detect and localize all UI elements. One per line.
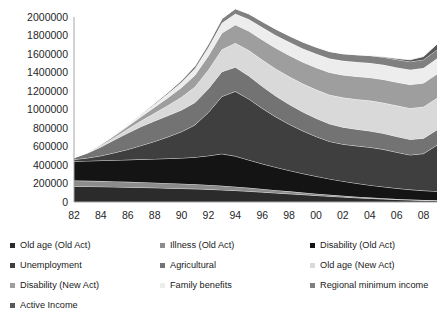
legend-item-label: Regional minimum income (320, 281, 428, 290)
chart-legend: Old age (Old Act)Illness (Old Act)Disabi… (0, 236, 447, 320)
y-axis-tick-label: 1200000 (27, 85, 68, 97)
stacked-area-chart: 0200000400000600000800000100000012000001… (0, 0, 447, 320)
legend-item-label: Disability (Old Act) (320, 241, 395, 250)
plot-area: 0200000400000600000800000100000012000001… (0, 0, 447, 232)
legend-item[interactable]: Illness (Old Act) (160, 241, 310, 250)
x-axis-tick-label: 98 (283, 209, 295, 221)
y-axis-tick-label: 2000000 (27, 11, 68, 23)
legend-item-label: Old age (New Act) (320, 261, 395, 270)
x-axis-tick-label: 08 (418, 209, 430, 221)
x-axis-tick-label: 04 (364, 209, 376, 221)
legend-item[interactable]: Disability (Old Act) (310, 241, 447, 250)
legend-item-label: Family benefits (170, 281, 232, 290)
y-axis-tick-label: 1000000 (27, 103, 68, 115)
y-axis-tick-label: 0 (62, 196, 68, 208)
x-axis-tick-label: 90 (176, 209, 188, 221)
y-axis-tick-label: 400000 (33, 159, 68, 171)
legend-item[interactable]: Old age (Old Act) (10, 241, 160, 250)
legend-swatch-icon (310, 243, 315, 248)
y-axis-tick-label: 1800000 (27, 29, 68, 41)
legend-swatch-icon (10, 263, 15, 268)
x-axis-tick-label: 84 (95, 209, 107, 221)
legend-swatch-icon (160, 283, 165, 288)
y-axis-tick-label: 800000 (33, 122, 68, 134)
legend-item[interactable]: Agricultural (160, 261, 310, 270)
legend-item-label: Unemployment (20, 261, 82, 270)
y-axis-tick-label: 1600000 (27, 48, 68, 60)
legend-item[interactable]: Old age (New Act) (310, 261, 447, 270)
plot-svg: 0200000400000600000800000100000012000001… (0, 0, 447, 232)
legend-swatch-icon (160, 243, 165, 248)
legend-swatch-icon (310, 263, 315, 268)
legend-swatch-icon (10, 283, 15, 288)
x-axis-tick-label: 82 (68, 209, 80, 221)
legend-grid: Old age (Old Act)Illness (Old Act)Disabi… (10, 236, 437, 316)
x-axis-tick-label: 92 (203, 209, 215, 221)
legend-item[interactable]: Disability (New Act) (10, 281, 160, 290)
x-axis-tick-label: 00 (310, 209, 322, 221)
legend-swatch-icon (10, 303, 15, 308)
y-axis-tick-label: 200000 (33, 177, 68, 189)
legend-swatch-icon (160, 263, 165, 268)
legend-item-label: Agricultural (170, 261, 216, 270)
legend-item-label: Active Income (20, 301, 78, 310)
legend-item[interactable]: Active Income (10, 301, 160, 310)
legend-item-label: Illness (Old Act) (170, 241, 234, 250)
legend-item-label: Disability (New Act) (20, 281, 99, 290)
legend-item[interactable]: Unemployment (10, 261, 160, 270)
legend-swatch-icon (310, 283, 315, 288)
legend-item-label: Old age (Old Act) (20, 241, 90, 250)
y-axis-tick-label: 600000 (33, 140, 68, 152)
x-axis-tick-label: 86 (122, 209, 134, 221)
legend-item[interactable]: Regional minimum income (310, 281, 447, 290)
legend-item[interactable]: Family benefits (160, 281, 310, 290)
x-axis-tick-label: 88 (149, 209, 161, 221)
x-axis-tick-label: 02 (337, 209, 349, 221)
x-axis-tick-label: 94 (229, 209, 241, 221)
x-axis-tick-label: 96 (256, 209, 268, 221)
y-axis-tick-label: 1400000 (27, 66, 68, 78)
legend-swatch-icon (10, 243, 15, 248)
x-axis-tick-label: 06 (391, 209, 403, 221)
